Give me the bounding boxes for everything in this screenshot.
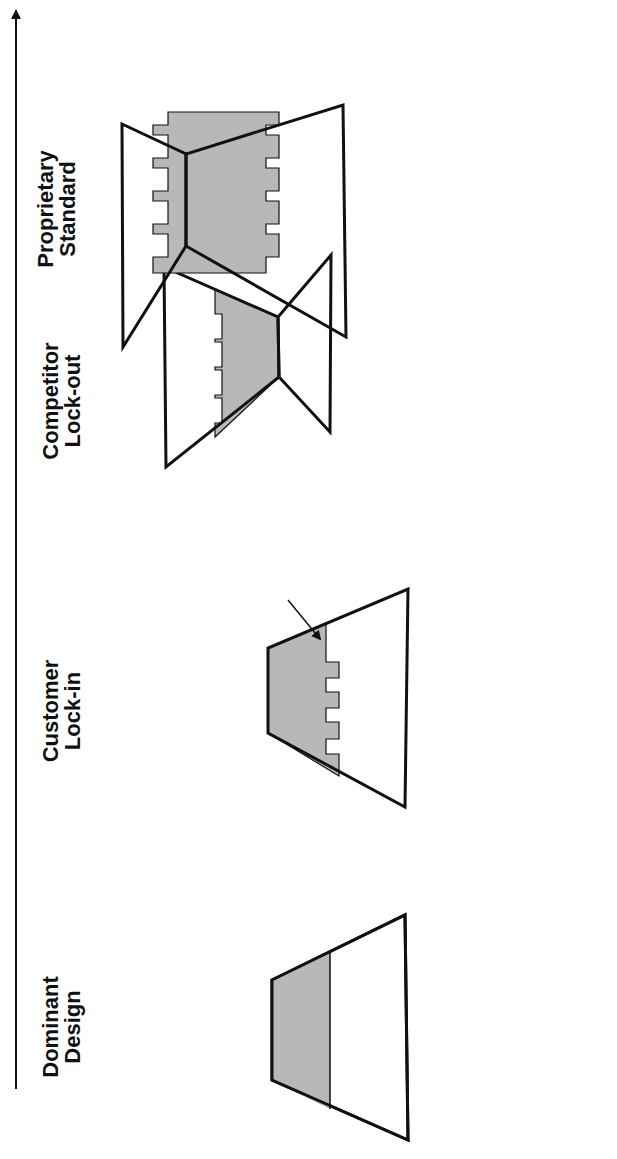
title-line: Competitor	[40, 291, 62, 511]
title-line: Design	[62, 917, 84, 1137]
title-line: Dominant	[40, 917, 62, 1137]
dominant-design-shape	[272, 915, 408, 1140]
diagram-canvas: Dominant Design Customer Lock-in Competi…	[0, 0, 617, 1159]
title-line: Standard	[57, 99, 79, 319]
title-line: Lock-out	[62, 291, 84, 511]
stage-title-competitor-lock-out: Competitor Lock-out	[40, 291, 84, 511]
stage-title-dominant-design: Dominant Design	[40, 917, 84, 1137]
title-line: Lock-in	[62, 601, 84, 821]
stage-title-proprietary-standard: Proprietary Standard	[35, 99, 79, 319]
title-line: Proprietary	[35, 99, 57, 319]
title-line: Customer	[40, 601, 62, 821]
customer-lock-in-shape	[268, 589, 408, 807]
diagram-graphics	[0, 0, 617, 1159]
stage-title-customer-lock-in: Customer Lock-in	[40, 601, 84, 821]
competitor-lock-out-shape	[164, 242, 331, 467]
